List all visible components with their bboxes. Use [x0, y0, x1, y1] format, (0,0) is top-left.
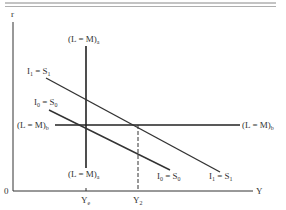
lm-b-left-label: (L = M)b: [17, 120, 49, 131]
lm-a-bottom-label: (L = M)a: [68, 169, 100, 180]
lm-b-right-label: (L = M)b: [242, 120, 274, 131]
lm-a-top-label: (L = M)a: [68, 34, 100, 45]
origin-label: 0: [4, 186, 9, 196]
ye-label: Ye: [81, 195, 91, 206]
is0-top-label: I0 = S0: [34, 97, 58, 108]
is0-line: [49, 110, 170, 170]
is-lm-diagram: r Y 0 (L = M)a (L = M)a (L = M)b (L = M)…: [0, 0, 286, 210]
is1-bottom-label: I1 = S1: [209, 171, 233, 182]
x-axis-label: Y: [256, 186, 263, 196]
y2-label: Y2: [133, 195, 143, 206]
y-axis-label: r: [11, 9, 14, 19]
is1-top-label: I1 = S1: [27, 66, 51, 77]
is0-bottom-label: I0 = S0: [157, 171, 181, 182]
